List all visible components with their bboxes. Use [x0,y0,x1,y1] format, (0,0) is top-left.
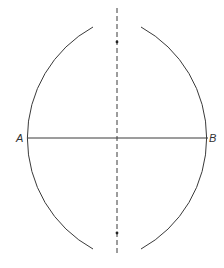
label-a: A [15,132,23,144]
perpendicular-bisector-diagram: A B [0,0,224,268]
label-b: B [209,132,216,144]
lower-intersection-point [116,232,119,235]
upper-intersection-point [116,41,119,44]
